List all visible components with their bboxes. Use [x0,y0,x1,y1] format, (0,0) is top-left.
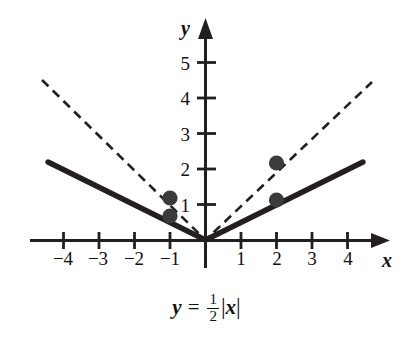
caption-equals-sign: = [188,295,200,319]
plot-canvas [0,0,413,341]
x-tick-label-minus-1: −1 [152,249,188,268]
x-tick-label-1: 1 [223,249,259,268]
y-tick-label-4: 4 [168,89,190,108]
caption-fraction-one-half: 12 [207,292,219,325]
y-tick-label-1: 1 [168,196,190,215]
abs-bar-close: | [236,294,241,319]
data-point [269,192,284,207]
y-axis-label: y [181,18,190,38]
x-tick-label-3: 3 [294,249,330,268]
fraction-denominator: 2 [207,309,219,325]
data-point [269,155,284,170]
x-axis-arrowhead [371,233,390,248]
x-axis-label: x [382,250,392,270]
caption-x-variable: x [226,295,237,319]
caption-y-variable: y [172,295,181,319]
x-tick-label-minus-4: −4 [45,249,81,268]
equation-caption: y=12|x| [0,292,413,325]
x-tick-label-2: 2 [259,249,295,268]
x-tick-label-minus-3: −3 [80,249,116,268]
x-tick-label-4: 4 [330,249,366,268]
axes-group [30,18,390,268]
y-tick-label-5: 5 [168,54,190,73]
y-axis-arrowhead [198,18,213,39]
x-tick-label-minus-2: −2 [116,249,152,268]
y-tick-label-2: 2 [168,160,190,179]
y-tick-label-3: 3 [168,125,190,144]
fraction-numerator: 1 [207,292,219,309]
absolute-value-graph-figure: 5 4 3 2 1 −4 −3 −2 −1 1 2 3 4 x y y=12|x… [0,0,413,341]
